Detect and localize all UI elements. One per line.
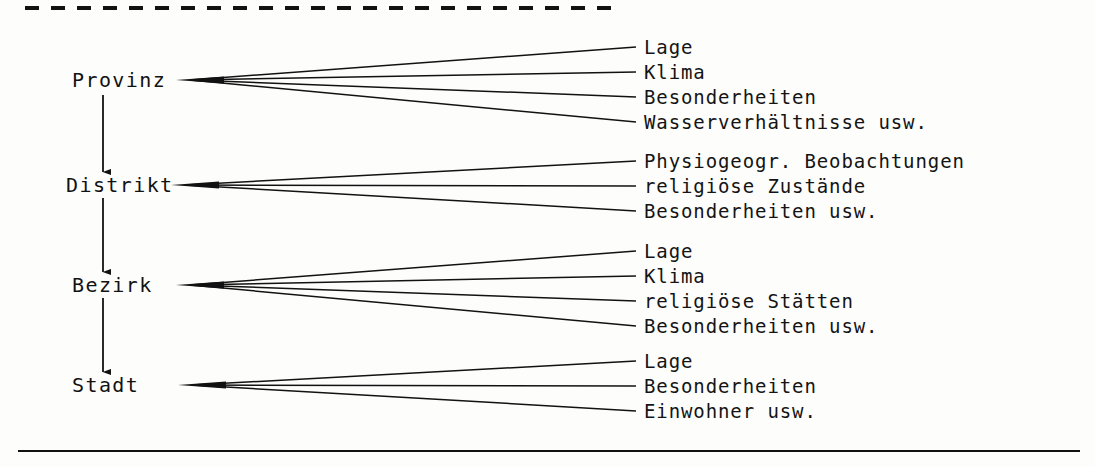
attribute-label: Wasserverhältnisse usw. — [644, 111, 928, 133]
attribute-label: Einwohner usw. — [644, 400, 817, 422]
fan-line-3-3 — [190, 285, 636, 301]
fan-line-1-4 — [190, 80, 636, 122]
fan-line-2-1 — [185, 161, 636, 185]
attribute-label: religiöse Stätten — [644, 290, 854, 312]
fan-line-2-3 — [185, 185, 636, 211]
level-label-distrikt: Distrikt — [66, 173, 174, 197]
fan-line-4-1 — [192, 361, 636, 385]
fan-line-1-2 — [190, 72, 636, 80]
attribute-label: Physiogeogr. Beobachtungen — [644, 150, 965, 172]
fan-line-1-3 — [190, 80, 636, 97]
fan-line-4-3 — [192, 385, 636, 411]
attribute-label: Lage — [644, 240, 693, 262]
attribute-label: Besonderheiten usw. — [644, 200, 878, 222]
level-label-bezirk: Bezirk — [72, 273, 153, 297]
attribute-label: Besonderheiten — [644, 375, 817, 397]
attribute-label: religiöse Zustände — [644, 175, 866, 197]
attribute-label: Besonderheiten — [644, 86, 817, 108]
level-label-provinz: Provinz — [72, 68, 166, 92]
attribute-label: Besonderheiten usw. — [644, 315, 878, 337]
attribute-label: Klima — [644, 265, 706, 287]
attribute-label: Klima — [644, 61, 706, 83]
diagram-page: ProvinzLageKlimaBesonderheitenWasserverh… — [0, 0, 1095, 467]
fan-line-2-2 — [185, 185, 636, 186]
fan-line-4-2 — [192, 385, 636, 386]
fan-line-3-4 — [190, 285, 636, 326]
attribute-label: Lage — [644, 350, 693, 372]
level-label-stadt: Stadt — [72, 373, 139, 397]
fan-line-1-1 — [190, 47, 636, 80]
attribute-label: Lage — [644, 36, 693, 58]
